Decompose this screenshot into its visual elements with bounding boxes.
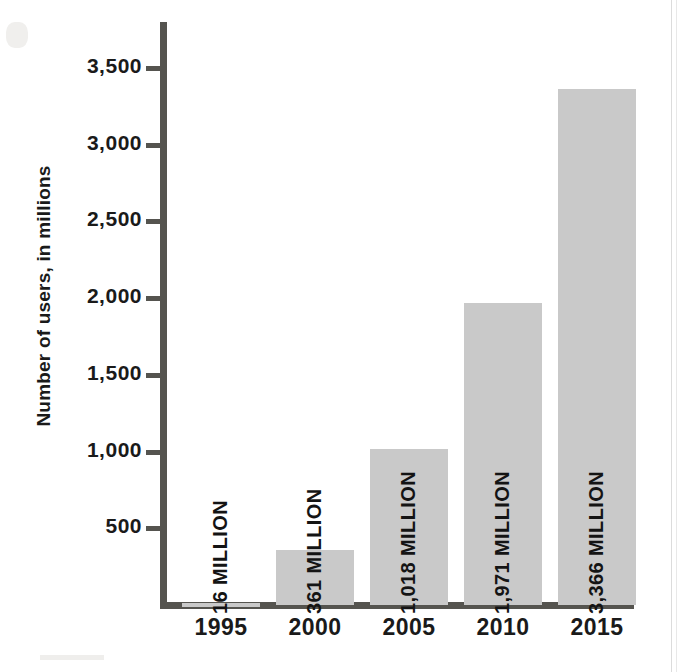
plot-area: Number of users, in millions 5001,0001,5…	[0, 0, 683, 672]
y-axis-tick-mark	[146, 296, 161, 301]
bar-value-label: 16 MILLION	[209, 500, 232, 614]
x-axis-tick-label: 2005	[359, 614, 459, 641]
y-axis-tick-label: 2,000	[37, 284, 142, 308]
bar-value-label: 361 MILLION	[303, 488, 326, 614]
bar-value-label: 1,971 MILLION	[491, 471, 514, 614]
y-axis-tick-mark	[146, 66, 161, 71]
y-axis-tick-mark	[146, 450, 161, 455]
x-axis-tick-label: 1995	[171, 614, 271, 641]
bar-value-label: 1,018 MILLION	[397, 471, 420, 614]
y-axis-tick-label-wrap: 2,000	[22, 284, 142, 308]
y-axis-tick-label-wrap: 2,500	[22, 207, 142, 231]
y-axis-tick-label: 2,500	[37, 207, 142, 231]
bar-value-label: 3,366 MILLION	[585, 471, 608, 614]
y-axis-tick-label: 500	[37, 514, 142, 538]
y-axis-tick-label: 3,500	[37, 54, 142, 78]
y-axis-line	[160, 22, 167, 608]
y-axis-tick-mark	[146, 143, 161, 148]
y-axis-tick-label-wrap: 3,000	[22, 131, 142, 155]
y-axis-tick-label-wrap: 500	[22, 514, 142, 538]
y-axis-tick-label-wrap: 1,000	[22, 438, 142, 462]
y-axis-tick-label: 1,500	[37, 361, 142, 385]
y-axis-tick-label-wrap: 3,500	[22, 54, 142, 78]
y-axis-tick-label-wrap: 1,500	[22, 361, 142, 385]
y-axis-tick-mark	[146, 526, 161, 531]
y-axis-tick-label: 3,000	[37, 131, 142, 155]
x-axis-tick-label: 2010	[453, 614, 553, 641]
chart-page: Number of users, in millions 5001,0001,5…	[0, 0, 683, 672]
y-axis-tick-mark	[146, 373, 161, 378]
x-axis-tick-label: 2000	[265, 614, 365, 641]
y-axis-tick-label: 1,000	[37, 438, 142, 462]
y-axis-tick-mark	[146, 219, 161, 224]
x-axis-tick-label: 2015	[547, 614, 647, 641]
